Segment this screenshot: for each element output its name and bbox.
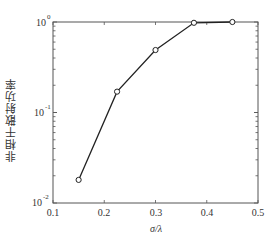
x-tick-label: 0.2	[98, 207, 111, 218]
svg-text:0: 0	[47, 13, 51, 21]
svg-text:-2: -2	[43, 193, 49, 201]
svg-text:-1: -1	[45, 103, 51, 111]
x-tick-label: 0.5	[252, 207, 265, 218]
svg-text:10: 10	[34, 107, 44, 118]
x-tick-label: 0.3	[150, 207, 163, 218]
data-markers	[76, 19, 235, 182]
y-axis-title: 非相干散射功率	[4, 60, 20, 180]
y-tick-label-0: 10 -2	[32, 193, 49, 208]
data-line	[79, 22, 233, 180]
svg-text:10: 10	[36, 17, 46, 28]
data-point-marker	[76, 177, 81, 182]
chart: 0.1 0.2 0.3 0.4 0.5 10 -2 10 -1 10 0 σ/λ	[0, 0, 277, 242]
y-tick-label-1: 10 -1	[34, 103, 51, 118]
data-point-marker	[230, 19, 235, 24]
data-point-marker	[153, 47, 158, 52]
x-tick-label: 0.1	[47, 207, 60, 218]
x-tick-label: 0.4	[201, 207, 214, 218]
svg-text:10: 10	[32, 197, 42, 208]
y-tick-label-2: 10 0	[36, 13, 51, 28]
data-point-marker	[191, 20, 196, 25]
x-axis-title: σ/λ	[150, 223, 163, 234]
data-point-marker	[114, 89, 119, 94]
